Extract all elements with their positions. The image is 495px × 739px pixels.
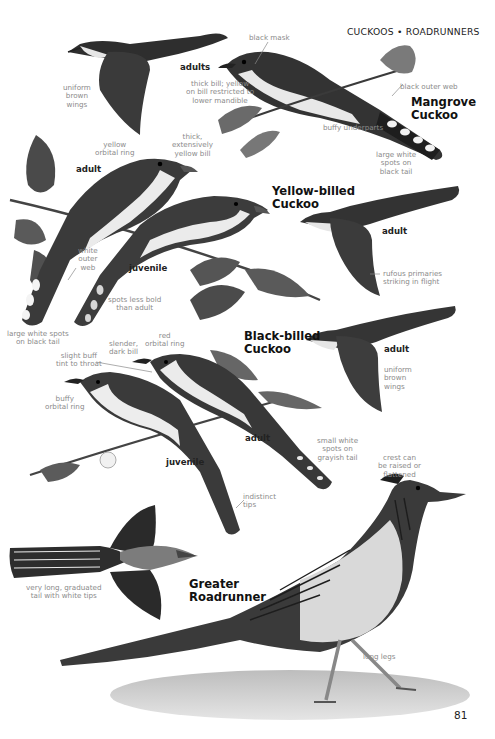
label-mangrove-adults: adults <box>180 62 210 72</box>
annotation-thick-bill-mangrove: thick bill; yellow on bill restricted to… <box>186 80 254 105</box>
label-black-billed-adult-flight: adult <box>384 344 409 354</box>
annotation-yellow-orbital-ring: yellow orbital ring <box>95 141 135 158</box>
annotation-black-mask: black mask <box>249 34 290 42</box>
species-name-yellow-billed-cuckoo: Yellow-billed Cuckoo <box>272 185 355 211</box>
annotation-rufous-primaries: rufous primaries striking in flight <box>383 270 442 287</box>
annotation-crest: crest can be raised or flattened <box>378 454 421 479</box>
annotation-uniform-brown-wings-black-billed: uniform brown wings <box>384 366 412 391</box>
label-black-billed-juvenile: juvenile <box>166 457 204 467</box>
annotation-long-legs: long legs <box>363 653 396 661</box>
annotation-thick-yellow-bill: thick, extensively yellow bill <box>172 133 213 158</box>
label-yellow-billed-adult-perched: adult <box>76 164 101 174</box>
label-yellow-billed-adult-flight: adult <box>382 226 407 236</box>
annotation-slight-buff-tint: slight buff tint to throat <box>56 352 102 369</box>
annotation-buffy-underparts: buffy underparts <box>323 124 383 132</box>
roadrunner-flight-illustration <box>10 505 199 620</box>
annotation-long-tail: very long, graduated tail with white tip… <box>26 584 102 601</box>
section-header: CUCKOOS • ROADRUNNERS <box>347 26 480 37</box>
annotation-uniform-brown-wings-mangrove: uniform brown wings <box>63 84 91 109</box>
yellow-billed-cuckoo-perched-illustration <box>10 135 320 326</box>
annotation-large-white-spots-yellow-billed: large white spots on black tail <box>7 330 69 347</box>
annotation-red-orbital-ring: red orbital ring <box>145 332 185 349</box>
species-name-greater-roadrunner: Greater Roadrunner <box>189 578 266 604</box>
annotation-small-white-spots: small white spots on grayish tail <box>317 437 358 462</box>
annotation-slender-dark-bill: slender, dark bill <box>109 340 138 357</box>
page-number: 81 <box>454 709 467 721</box>
species-name-black-billed-cuckoo: Black-billed Cuckoo <box>244 330 320 356</box>
label-yellow-billed-juvenile: juvenile <box>129 263 167 273</box>
black-billed-cuckoo-flight-illustration <box>306 306 456 412</box>
annotation-white-outer-web: white outer web <box>78 247 98 272</box>
annotation-spots-less-bold: spots less bold than adult <box>108 296 161 313</box>
annotation-indistinct-tips: indistinct tips <box>243 493 276 510</box>
field-guide-page: CUCKOOS • ROADRUNNERS black mask uniform… <box>0 0 495 739</box>
annotation-large-white-spots-mangrove: large white spots on black tail <box>376 151 416 176</box>
annotation-buffy-orbital-ring: buffy orbital ring <box>45 395 85 412</box>
annotation-black-outer-web: black outer web <box>400 83 458 91</box>
black-billed-cuckoo-perched-illustration <box>30 350 332 535</box>
label-black-billed-adult-perched: adult <box>245 433 270 443</box>
species-name-mangrove-cuckoo: Mangrove Cuckoo <box>411 96 476 122</box>
